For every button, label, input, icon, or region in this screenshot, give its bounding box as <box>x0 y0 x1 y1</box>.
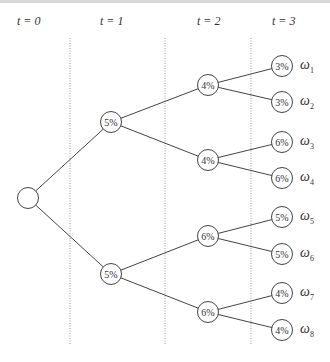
node-t3-5: 5% <box>271 206 293 228</box>
time-label-3: t = 3 <box>272 14 295 29</box>
node-t2-2: 4% <box>197 149 219 171</box>
node-t1-down: 5% <box>100 263 122 285</box>
time-label-2: t = 2 <box>197 14 220 29</box>
outcome-label-6: ω6 <box>300 245 314 263</box>
node-t3-4: 6% <box>271 167 293 189</box>
root-node <box>17 187 39 209</box>
node-t3-8: 4% <box>271 319 293 341</box>
node-t2-1: 4% <box>197 74 219 96</box>
time-label-0: t = 0 <box>17 14 40 29</box>
outcome-label-5: ω5 <box>300 208 314 226</box>
node-t3-6: 5% <box>271 243 293 265</box>
outcome-label-8: ω8 <box>300 321 314 339</box>
node-t3-3: 6% <box>271 131 293 153</box>
node-t3-7: 4% <box>271 282 293 304</box>
outcome-label-1: ω1 <box>300 57 314 75</box>
node-t3-2: 3% <box>271 91 293 113</box>
outcome-label-3: ω3 <box>300 133 314 151</box>
outcome-label-7: ω7 <box>300 284 314 302</box>
node-t2-4: 6% <box>197 301 219 323</box>
node-t2-3: 6% <box>197 225 219 247</box>
node-t3-1: 3% <box>271 55 293 77</box>
time-label-1: t = 1 <box>100 14 123 29</box>
outcome-label-4: ω4 <box>300 169 314 187</box>
node-t1-up: 5% <box>100 111 122 133</box>
outcome-label-2: ω2 <box>300 93 314 111</box>
